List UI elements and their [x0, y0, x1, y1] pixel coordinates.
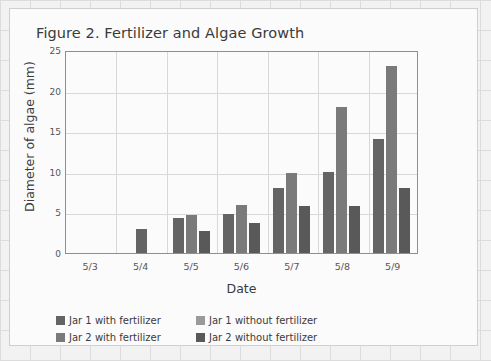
- bar: [136, 229, 147, 253]
- y-axis-title: Diameter of algae (mm): [22, 37, 37, 237]
- bar: [399, 188, 410, 253]
- bar: [349, 206, 360, 253]
- x-axis-tick: 5/3: [65, 261, 115, 277]
- y-axis-tick: 10: [35, 168, 61, 178]
- y-axis-tick: 0: [35, 249, 61, 259]
- legend-swatch-icon: [196, 333, 205, 342]
- y-axis-tick: 5: [35, 208, 61, 218]
- bar-group: [116, 52, 166, 253]
- bar-group: [267, 52, 317, 253]
- bar: [173, 218, 184, 253]
- bar: [386, 66, 397, 253]
- legend-label: Jar 2 without fertilizer: [209, 332, 317, 343]
- bar-group: [166, 52, 216, 253]
- x-axis-tick: 5/7: [267, 261, 317, 277]
- bar: [236, 205, 247, 253]
- bar-groups: [66, 52, 417, 253]
- bar: [323, 172, 334, 253]
- x-axis-tick: 5/8: [317, 261, 367, 277]
- bar-group: [367, 52, 417, 253]
- y-axis-tick: 20: [35, 87, 61, 97]
- bar: [373, 139, 384, 253]
- x-axis-tick: 5/4: [115, 261, 165, 277]
- bar: [336, 107, 347, 253]
- bar: [199, 231, 210, 253]
- x-axis-title: Date: [65, 281, 418, 296]
- chart-legend: Jar 1 with fertilizerJar 1 without ferti…: [56, 315, 386, 343]
- x-axis-tick: 5/6: [216, 261, 266, 277]
- y-axis-tick: 15: [35, 127, 61, 137]
- x-axis-tick: 5/5: [166, 261, 216, 277]
- bar: [249, 223, 260, 253]
- legend-item: Jar 1 with fertilizer: [56, 315, 186, 326]
- legend-swatch-icon: [56, 316, 65, 325]
- x-axis-tick: 5/9: [368, 261, 418, 277]
- page-title: Figure 2. Fertilizer and Algae Growth: [36, 25, 304, 41]
- legend-label: Jar 1 with fertilizer: [69, 315, 161, 326]
- figure-card: Figure 2. Fertilizer and Algae Growth 05…: [9, 8, 478, 346]
- legend-swatch-icon: [196, 316, 205, 325]
- legend-label: Jar 2 with fertilizer: [69, 332, 161, 343]
- legend-item: Jar 2 without fertilizer: [196, 332, 386, 343]
- y-axis-tick: 25: [35, 46, 61, 56]
- bar: [286, 173, 297, 253]
- legend-item: Jar 2 with fertilizer: [56, 332, 186, 343]
- bar: [273, 188, 284, 253]
- screenshot-root: Figure 2. Fertilizer and Algae Growth 05…: [0, 0, 491, 361]
- x-axis-tick-labels: 5/35/45/55/65/75/85/9: [65, 261, 418, 277]
- legend-item: Jar 1 without fertilizer: [196, 315, 386, 326]
- bar: [223, 214, 234, 253]
- bar: [299, 206, 310, 253]
- bar-group: [66, 52, 116, 253]
- bar: [186, 215, 197, 253]
- bar-group: [317, 52, 367, 253]
- legend-label: Jar 1 without fertilizer: [209, 315, 317, 326]
- legend-swatch-icon: [56, 333, 65, 342]
- bar-group: [216, 52, 266, 253]
- plot-area: [65, 51, 418, 254]
